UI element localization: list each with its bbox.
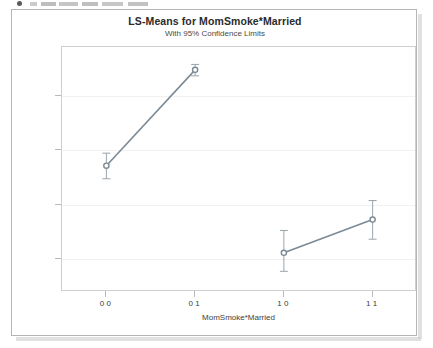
data-point-marker: [104, 163, 109, 168]
cut-off-text-fragment: [0, 0, 433, 8]
panel-shadow-bottom: [16, 337, 421, 341]
x-axis-title: MomSmoke*Married: [61, 313, 416, 322]
chart-subtitle: With 95% Confidence Limits: [12, 29, 418, 38]
data-layer: [62, 47, 417, 292]
x-tick-mark: [105, 291, 106, 297]
series-segment: [284, 220, 373, 253]
chart-title: LS-Means for MomSmoke*Married: [12, 15, 418, 27]
chart-panel: LS-Means for MomSmoke*Married With 95% C…: [11, 9, 417, 336]
plot-area: [61, 46, 416, 291]
fragment-text-smudge: [30, 2, 148, 6]
x-tick-label: 0 1: [174, 299, 214, 308]
data-point-marker: [370, 217, 375, 222]
x-tick-mark: [372, 291, 373, 297]
x-tick-label: 1 1: [352, 299, 392, 308]
data-point-marker: [281, 250, 286, 255]
x-tick-mark: [194, 291, 195, 297]
data-point-marker: [193, 67, 198, 72]
fragment-bullet-icon: [17, 1, 22, 6]
series-segment: [106, 70, 195, 166]
x-tick-mark: [283, 291, 284, 297]
x-tick-label: 1 0: [263, 299, 303, 308]
panel-shadow-right: [418, 14, 422, 339]
x-tick-label: 0 0: [85, 299, 125, 308]
